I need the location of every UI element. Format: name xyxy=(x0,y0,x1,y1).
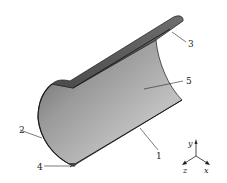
callout-2: 2 xyxy=(19,125,25,135)
x-axis-label: x xyxy=(204,166,209,175)
y-arrowhead-icon xyxy=(195,139,198,144)
x-axis-arrow xyxy=(196,156,207,163)
leader-1 xyxy=(140,128,158,150)
z-arrowhead-icon xyxy=(182,161,187,166)
leader-3 xyxy=(172,32,186,42)
callout-1: 1 xyxy=(156,151,162,161)
axes-triad: y z x xyxy=(182,139,210,175)
y-axis-label: y xyxy=(187,139,193,148)
x-arrowhead-icon xyxy=(205,161,210,166)
half-cylinder-diagram: 1 2 3 4 5 y z x xyxy=(0,0,227,183)
z-axis-label: z xyxy=(182,166,188,175)
callout-3: 3 xyxy=(188,39,194,49)
callout-4: 4 xyxy=(37,162,43,172)
callout-5: 5 xyxy=(186,76,192,86)
z-axis-arrow xyxy=(185,156,196,163)
